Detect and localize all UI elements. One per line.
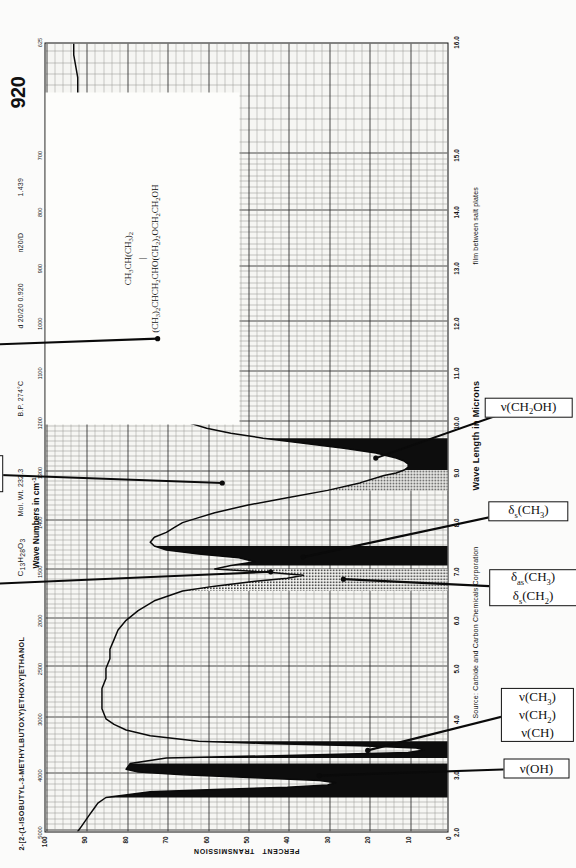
wavenumber-tick: 900 <box>36 263 42 272</box>
micron-tick: 13.0 <box>452 262 459 274</box>
callout-nu-CH2OH-line-1: ν(CH2OH) <box>500 398 556 416</box>
wavenumber-tick: 1300 <box>36 466 42 478</box>
wavenumber-tick: 3000 <box>36 713 42 725</box>
sample-state-note: film between salt plates <box>471 186 478 264</box>
wavenumber-tick: 4000 <box>36 769 42 781</box>
source-note: Source: Carbide and Carbon Chemicals Cor… <box>471 546 478 718</box>
structure-label-box: CH3CH(CH3)2 | (CH3)2CHCH2CHO(CH2)2OCH2CH… <box>45 92 239 424</box>
wavenumber-tick: 2500 <box>36 662 42 674</box>
transmission-tick: 70 <box>162 836 169 854</box>
density: d 20/20 0.920 <box>16 283 23 328</box>
callout-nu-CH-line-1: ν(CH3) <box>519 688 556 706</box>
wavenumber-axis-exponent: -1 <box>30 477 36 482</box>
wavenumber-tick: 700 <box>36 150 42 159</box>
micron-tick: 14.0 <box>452 206 459 218</box>
callout-delta-as-CH-line-1: δas(CH3) <box>510 569 554 587</box>
callout-delta-s-CH3: δs(CH3) <box>488 501 568 521</box>
wavenumber-tick: 1100 <box>36 367 42 379</box>
micron-tick: 9.0 <box>452 468 459 477</box>
callout-nu-CH2OH: ν(CH2OH) <box>484 397 572 417</box>
band-2 <box>182 569 448 591</box>
callout-nu-CH-line-2: ν(CH2) <box>519 706 556 724</box>
compound-name: 2-[2-(1-ISOBUTYL-3-METHYLBUTOXY)ETHOXY]E… <box>16 636 25 850</box>
transmission-tick: 10 <box>404 836 411 854</box>
micron-tick: 11.0 <box>452 367 459 379</box>
molecular-formula: C13H28O3 <box>15 538 26 576</box>
molecular-weight: Mol. Wt. 232.3 <box>16 468 23 516</box>
wavenumber-tick: 1400 <box>36 516 42 528</box>
micron-tick: 12.0 <box>452 317 459 329</box>
transmission-tick: 0 <box>445 836 452 854</box>
transmission-tick: 90 <box>81 836 88 854</box>
wavenumber-tick: 1500 <box>36 565 42 577</box>
transmission-tick: 40 <box>283 836 290 854</box>
refractive-index-label: n20/D <box>16 232 23 252</box>
structure-line-2: (CH3)2CHCH2CHO(CH2)2OCH2CH2OH <box>148 184 162 332</box>
transmission-tick: 80 <box>121 836 128 854</box>
band-5 <box>263 438 448 470</box>
callout-nu-CH-line-3: ν(CH) <box>521 724 554 740</box>
transmission-tick: 20 <box>364 836 371 854</box>
callout-nu-CH: ν(CH3)ν(CH2)ν(CH) <box>500 687 573 741</box>
wavenumber-tick: 625 <box>36 37 42 46</box>
transmission-tick: 100 <box>41 836 48 854</box>
micron-tick: 10.0 <box>452 417 459 429</box>
micron-tick: 4.0 <box>452 715 459 724</box>
callout-nu-CH2O: ν(CH2O)?ν(CHRO)? <box>0 455 2 492</box>
micron-tick: 8.0 <box>452 518 459 527</box>
transmission-tick: 60 <box>202 836 209 854</box>
wavenumber-tick: 1000 <box>36 317 42 329</box>
callout-delta-as-CH: δas(CH3)δs(CH2) <box>489 568 576 605</box>
callout-delta-s-CH3-line-1: δs(CH3) <box>508 501 548 519</box>
micron-tick: 7.0 <box>452 567 459 576</box>
callout-delta-as-CH-line-2: δs(CH2) <box>512 587 552 605</box>
wavenumber-tick: 800 <box>36 207 42 216</box>
x-axis-title: Wave Length in Microns <box>470 380 480 490</box>
micron-tick: 5.0 <box>452 664 459 673</box>
transmission-tick: 30 <box>323 836 330 854</box>
structure-line-1: CH3CH(CH3)2 <box>121 184 135 332</box>
callout-nu-OH-line-1: ν(OH) <box>519 760 552 776</box>
micron-tick: 2.0 <box>452 828 459 837</box>
spectrum-plot: CH3CH(CH3)2 | (CH3)2CHCH2CHO(CH2)2OCH2CH… <box>44 42 448 832</box>
wavenumber-tick: 2000 <box>36 614 42 626</box>
micron-tick: 6.0 <box>452 616 459 625</box>
refractive-index-value: 1.439 <box>16 177 23 196</box>
transmission-tick: 50 <box>243 836 250 854</box>
micron-tick: 3.0 <box>452 771 459 780</box>
spectrum-number: 920 <box>6 76 29 108</box>
structure-bond: | <box>135 184 148 332</box>
wavenumber-tick: 1200 <box>36 417 42 429</box>
micron-tick: 15.0 <box>452 149 459 161</box>
structure-formula: CH3CH(CH3)2 | (CH3)2CHCH2CHO(CH2)2OCH2CH… <box>121 184 162 332</box>
callout-nu-OH: ν(OH) <box>503 758 569 778</box>
micron-tick: 16.0 <box>452 36 459 48</box>
band-3 <box>154 546 448 566</box>
boiling-point: B.P. 274°C <box>16 380 23 416</box>
